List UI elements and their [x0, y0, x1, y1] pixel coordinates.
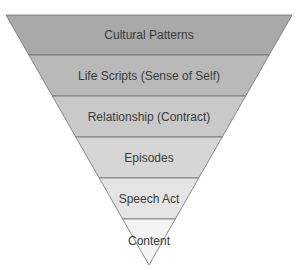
level-label-life-scripts: Life Scripts (Sense of Self) [78, 69, 220, 83]
level-label-relationship: Relationship (Contract) [88, 110, 211, 124]
level-label-episodes: Episodes [124, 151, 173, 165]
level-label-speech-act: Speech Act [119, 192, 180, 206]
inverted-pyramid-diagram: Cultural Patterns Life Scripts (Sense of… [0, 0, 296, 270]
level-label-content: Content [128, 234, 171, 248]
level-label-cultural-patterns: Cultural Patterns [104, 28, 193, 42]
